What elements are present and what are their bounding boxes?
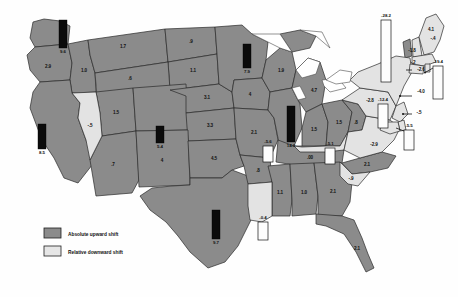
label-MT: 1.7 — [120, 44, 127, 49]
label-ID: 1.0 — [81, 68, 88, 73]
label-KS: 3.3 — [207, 123, 214, 128]
label-MI: 4.7 — [311, 88, 318, 93]
bar-md-label: -5.5 — [405, 123, 413, 128]
state-FL[interactable] — [316, 214, 374, 272]
label-ND: .9 — [189, 39, 193, 44]
label-NC: 2.1 — [364, 162, 371, 167]
bar-ny — [381, 20, 391, 82]
bar-la-label: -0.4 — [259, 215, 267, 220]
bar-ma-label: -19.4 — [433, 59, 444, 64]
us-choropleth-svg: 2.9 1.0 1.7 .9 1.1 .6 -.5 1.5 .7 3.1 3.3… — [0, 0, 458, 297]
bar-ky — [325, 148, 335, 164]
bar-wa — [59, 20, 67, 48]
label-WI: 1.9 — [278, 68, 285, 73]
bar-nj-label: -12.4 — [378, 97, 389, 102]
bar-md — [404, 130, 414, 150]
bar-mn-label: 7.9 — [244, 69, 251, 74]
bar-mo — [263, 146, 273, 162]
label-AL: 1.0 — [301, 190, 308, 195]
bar-nj — [378, 104, 388, 128]
bar-mo-label: -5.6 — [264, 139, 272, 144]
label-IN: 1.5 — [311, 127, 318, 132]
bar-il — [287, 106, 295, 142]
label-VA: -2.9 — [370, 142, 378, 147]
label-VT: -1.8 — [408, 48, 416, 53]
legend-swatch-upward — [44, 228, 61, 238]
legend-label-downward: Relative downward shift — [68, 250, 123, 255]
label-NH: -.4 — [430, 36, 436, 41]
label-OK: 4.5 — [211, 156, 218, 161]
map-figure: 2.9 1.0 1.7 .9 1.1 .6 -.5 1.5 .7 3.1 3.3… — [0, 0, 458, 297]
label-MS: 1.1 — [277, 190, 284, 195]
bar-tx — [212, 210, 220, 239]
label-WV: .8 — [354, 120, 358, 125]
legend-label-upward: Absolute upward shift — [68, 232, 119, 237]
label-AR: .8 — [256, 168, 260, 173]
label-NV: -.5 — [87, 123, 93, 128]
label-CT: -2.6 — [417, 67, 425, 72]
label-NJ: -4.0 — [417, 89, 425, 94]
state-ME[interactable] — [419, 14, 444, 55]
bar-mn — [243, 44, 251, 68]
label-SC: -.9 — [348, 176, 354, 181]
label-GA: 2.1 — [330, 189, 337, 194]
label-DE: -.5 — [416, 110, 422, 115]
label-FL: 2.1 — [354, 246, 361, 251]
bar-co-label: 5.4 — [157, 144, 164, 149]
label-TN: .00 — [307, 155, 314, 160]
label-MO: 2.1 — [251, 130, 258, 135]
label-OH: 1.5 — [336, 120, 343, 125]
bar-tx-label: 9.7 — [213, 240, 220, 245]
bar-il-label: 14.0 — [287, 143, 296, 148]
bar-co — [156, 126, 164, 143]
bar-ny-label: -28.2 — [381, 13, 392, 18]
bar-ma — [433, 66, 443, 99]
label-ME: 4.1 — [428, 27, 435, 32]
bar-ca — [38, 124, 46, 149]
label-RI: -.2 — [410, 60, 416, 65]
label-NE: 3.1 — [204, 95, 211, 100]
label-AZ: .7 — [111, 162, 115, 167]
label-UT: 1.5 — [113, 110, 120, 115]
bar-ca-label: 8.5 — [39, 150, 46, 155]
legend: Absolute upward shift Relative downward … — [44, 228, 123, 256]
bar-wa-label: 9.6 — [60, 49, 67, 54]
label-OR: 2.9 — [45, 64, 52, 69]
label-PA: -2.8 — [366, 98, 374, 103]
legend-swatch-downward — [44, 246, 61, 256]
label-SD: 1.1 — [190, 68, 197, 73]
bar-la — [258, 222, 268, 240]
bar-ky-label: -5.1 — [326, 141, 334, 146]
label-WY: .6 — [128, 76, 132, 81]
